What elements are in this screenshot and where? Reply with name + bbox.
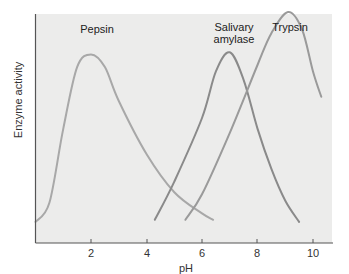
series-label-trypsin: Trypsin bbox=[272, 21, 308, 33]
x-axis-title: pH bbox=[179, 262, 193, 274]
x-tick-label: 8 bbox=[254, 247, 260, 259]
x-tick-label: 4 bbox=[144, 247, 150, 259]
series-label-salivary-amylase: Salivary bbox=[214, 21, 254, 33]
x-tick-label: 2 bbox=[88, 247, 94, 259]
y-axis-title: Enzyme activity bbox=[12, 61, 24, 138]
enzyme-activity-chart: 2 4 6 8 10 pH Enzyme activity Pepsin Sal… bbox=[0, 0, 349, 274]
plot-area bbox=[36, 14, 332, 243]
x-tick-label: 6 bbox=[199, 247, 205, 259]
series-label-salivary-amylase: amylase bbox=[214, 33, 255, 45]
x-tick-label: 10 bbox=[307, 247, 319, 259]
series-label-pepsin: Pepsin bbox=[80, 23, 114, 35]
